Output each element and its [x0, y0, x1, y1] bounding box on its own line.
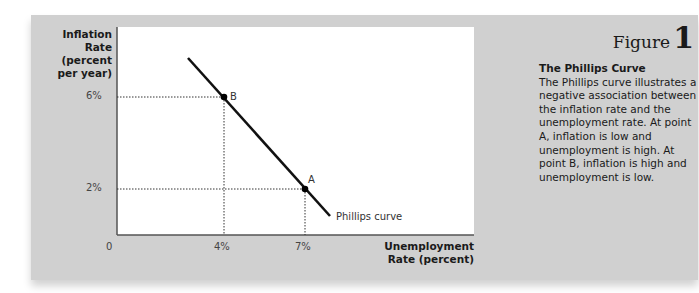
point-a-label: A — [308, 174, 315, 185]
phillips-curve-label: Phillips curve — [336, 211, 402, 222]
caption-text: The Phillips curve illustrates a negativ… — [539, 76, 696, 183]
y-axis-label-line: (percent — [40, 54, 112, 67]
y-axis-label-line: per year) — [40, 67, 112, 80]
y-tick-6: 6% — [86, 90, 102, 101]
figure-number: 1 — [673, 20, 694, 55]
origin-label: 0 — [106, 241, 112, 252]
figure-word: Figure — [613, 32, 670, 52]
figure-caption: The Phillips Curve The Phillips curve il… — [539, 62, 699, 184]
point-a-marker — [302, 186, 309, 193]
point-b-label: B — [230, 91, 237, 102]
y-axis-label-line: Inflation — [40, 28, 112, 41]
plot-area — [117, 27, 474, 235]
x-tick-4: 4% — [214, 241, 230, 252]
y-tick-2: 2% — [86, 182, 102, 193]
x-axis-label-line: Rate (percent) — [360, 253, 474, 266]
figure-label: Figure1 — [613, 20, 694, 55]
x-tick-7: 7% — [295, 241, 311, 252]
y-axis-label-line: Rate — [40, 41, 112, 54]
point-b-marker — [221, 94, 228, 101]
y-axis-label: Inflation Rate (percent per year) — [40, 28, 112, 80]
x-axis-label-line: Unemployment — [360, 240, 474, 253]
caption-title: The Phillips Curve — [539, 62, 699, 76]
x-axis-label: Unemployment Rate (percent) — [360, 240, 474, 266]
